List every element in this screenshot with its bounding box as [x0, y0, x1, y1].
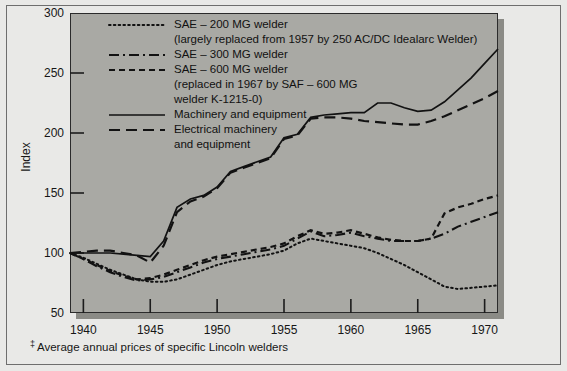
x-tick-label: 1940: [58, 324, 108, 336]
legend-item: SAE – 300 MG welder: [108, 48, 477, 63]
legend-subtext: welder K-1215-0): [108, 93, 477, 108]
legend-subtext: (replaced in 1967 by SAF – 600 MG: [108, 78, 477, 93]
legend-swatch-dash-dot: [108, 48, 170, 60]
y-tick-label: 150: [20, 187, 64, 199]
panel-shadow-right: [498, 19, 504, 319]
legend-swatch-dotted: [108, 18, 170, 30]
figure-footnote: ‡Average annual prices of specific Linco…: [30, 339, 288, 353]
legend-item: SAE – 600 MG welder: [108, 63, 477, 78]
chart-figure: Index 5010015020025030019401945195019551…: [0, 0, 567, 371]
x-tick-label: 1945: [125, 324, 175, 336]
legend-item: SAE – 200 MG welder: [108, 18, 477, 33]
legend-label: Electrical machinery: [170, 123, 277, 135]
legend-label: SAE – 300 MG welder: [170, 48, 288, 60]
chart-legend: SAE – 200 MG welder(largely replaced fro…: [108, 18, 477, 153]
legend-item: Electrical machinery: [108, 123, 477, 138]
legend-subtext: and equipment: [108, 138, 477, 153]
y-tick-label: 100: [20, 247, 64, 259]
x-tick-label: 1970: [460, 324, 510, 336]
x-tick-label: 1955: [259, 324, 309, 336]
y-tick-label: 300: [20, 7, 64, 19]
legend-label: Machinery and equipment: [170, 108, 306, 120]
footnote-marker: ‡: [30, 339, 35, 349]
legend-swatch-long-dash: [108, 123, 170, 135]
x-tick-label: 1965: [393, 324, 443, 336]
footnote-text: Average annual prices of specific Lincol…: [37, 341, 288, 353]
panel-shadow-bottom: [76, 313, 504, 319]
legend-subtext: (largely replaced from 1957 by 250 AC/DC…: [108, 33, 477, 48]
legend-label: SAE – 600 MG welder: [170, 63, 288, 75]
legend-label: SAE – 200 MG welder: [170, 18, 288, 30]
x-tick-label: 1950: [192, 324, 242, 336]
legend-item: Machinery and equipment: [108, 108, 477, 123]
x-tick-label: 1960: [326, 324, 376, 336]
legend-swatch-short-dash: [108, 63, 170, 75]
y-tick-label: 200: [20, 127, 64, 139]
y-tick-label: 250: [20, 67, 64, 79]
legend-swatch-solid: [108, 108, 170, 120]
y-tick-label: 50: [20, 307, 64, 319]
